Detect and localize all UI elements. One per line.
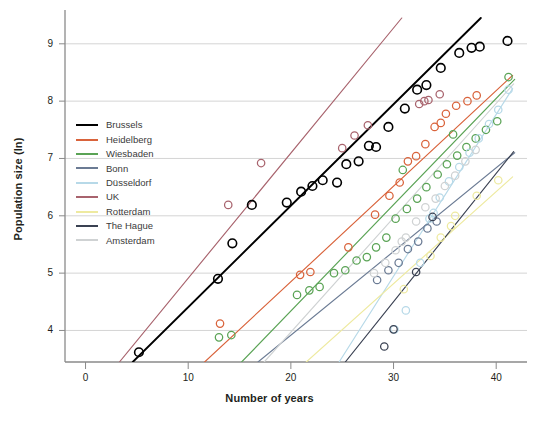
legend-item-brussels[interactable]: Brussels xyxy=(76,118,155,132)
legend-label: Bonn xyxy=(106,164,128,174)
trend-lines xyxy=(119,18,514,362)
legend-label: UK xyxy=(106,192,119,202)
x-tick-label: 0 xyxy=(71,372,101,383)
legend-label: Düsseldorf xyxy=(106,178,151,188)
legend-item-bonn[interactable]: Bonn xyxy=(76,161,155,175)
y-tick-label: 8 xyxy=(31,95,53,106)
legend-item-amsterdam[interactable]: Amsterdam xyxy=(76,233,155,247)
y-axis-title: Population size (ln) xyxy=(12,109,24,269)
y-tick-label: 4 xyxy=(31,324,53,335)
x-tick-label: 30 xyxy=(379,372,409,383)
legend-swatch-icon xyxy=(76,153,98,155)
legend-swatch-icon xyxy=(76,124,98,126)
y-tick-label: 7 xyxy=(31,152,53,163)
legend-swatch-icon xyxy=(76,211,98,213)
legend-label: Amsterdam xyxy=(106,236,155,246)
legend-swatch-icon xyxy=(76,182,98,184)
legend-swatch-icon xyxy=(76,139,98,141)
legend-item-düsseldorf[interactable]: Düsseldorf xyxy=(76,176,155,190)
legend-swatch-icon xyxy=(76,167,98,169)
legend-label: Wiesbaden xyxy=(106,149,154,159)
legend-item-the-hague[interactable]: The Hague xyxy=(76,219,155,233)
legend-swatch-icon xyxy=(76,196,98,198)
legend-item-wiesbaden[interactable]: Wiesbaden xyxy=(76,147,155,161)
legend-item-heidelberg[interactable]: Heidelberg xyxy=(76,132,155,146)
legend-item-uk[interactable]: UK xyxy=(76,190,155,204)
legend-swatch-icon xyxy=(76,239,98,241)
legend-item-rotterdam[interactable]: Rotterdam xyxy=(76,204,155,218)
chart-figure: Number of years Population size (ln) 010… xyxy=(0,0,539,422)
y-tick-label: 6 xyxy=(31,210,53,221)
legend-label: Brussels xyxy=(106,120,142,130)
legend-label: Heidelberg xyxy=(106,135,152,145)
x-tick-label: 40 xyxy=(481,372,511,383)
chart-legend: BrusselsHeidelbergWiesbadenBonnDüsseldor… xyxy=(76,118,155,248)
x-axis-title: Number of years xyxy=(0,392,539,404)
y-tick-label: 5 xyxy=(31,267,53,278)
legend-label: The Hague xyxy=(106,221,153,231)
y-tick-label: 9 xyxy=(31,38,53,49)
legend-label: Rotterdam xyxy=(106,207,150,217)
x-tick-label: 20 xyxy=(276,372,306,383)
x-tick-label: 10 xyxy=(173,372,203,383)
legend-swatch-icon xyxy=(76,225,98,227)
